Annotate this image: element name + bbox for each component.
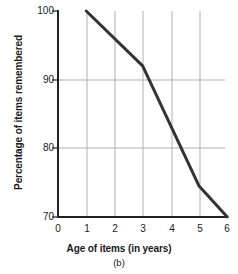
x-tick-label-6: 6 bbox=[219, 223, 235, 234]
x-axis-title: Age of items (in years) bbox=[0, 243, 238, 254]
y-tick-label-100: 100 bbox=[28, 5, 54, 16]
y-tick-label-70: 70 bbox=[28, 211, 54, 222]
x-tick-label-3: 3 bbox=[135, 223, 151, 234]
chart-figure: Percentage of items remembered 100 90 80… bbox=[0, 0, 238, 274]
y-tick-label-90: 90 bbox=[28, 74, 54, 85]
x-tick-label-5: 5 bbox=[192, 223, 208, 234]
y-tick-label-80: 80 bbox=[28, 142, 54, 153]
y-axis-title: Percentage of items remembered bbox=[13, 13, 24, 213]
x-tick-label-2: 2 bbox=[107, 223, 123, 234]
x-tick-label-4: 4 bbox=[164, 223, 180, 234]
panel-caption: (b) bbox=[0, 257, 238, 268]
x-tick-label-1: 1 bbox=[79, 223, 95, 234]
data-line-percentage-remembered bbox=[86, 11, 227, 217]
x-tick-label-0: 0 bbox=[50, 223, 66, 234]
